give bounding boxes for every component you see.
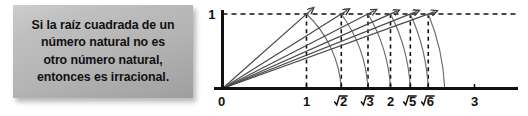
arc-sqrt6 [410, 14, 428, 89]
arc-sqrt5 [391, 14, 411, 89]
ray-to-r2 [223, 10, 348, 88]
x-tick-label-0: 1 [303, 94, 310, 109]
ray-to-r6 [223, 12, 435, 89]
x-tick-label-4: 5 [403, 94, 416, 109]
svg-text:5: 5 [409, 94, 416, 109]
origin-label: 0 [218, 94, 225, 109]
svg-text:3: 3 [367, 94, 374, 109]
ray-to-2 [223, 11, 397, 88]
axes [214, 10, 518, 89]
axis-labels: 101232563 [208, 7, 478, 109]
arc-sqrt7 [428, 14, 444, 89]
statement-line-2: número natural no es [17, 34, 189, 52]
figure-root: Si la raíz cuadrada de un número natural… [0, 0, 528, 116]
arc-sqrt4 [368, 14, 391, 89]
plot-area [223, 9, 517, 89]
x-tick-label-3: 2 [387, 94, 394, 109]
ray-to-r3 [223, 11, 375, 89]
x-tick-label-2: 3 [361, 94, 374, 109]
statement-line-3: otro número natural, [17, 52, 189, 70]
x-tick-label-5: 6 [421, 94, 434, 109]
number-line-diagram: 101232563 [200, 0, 528, 116]
y-axis-label-1: 1 [208, 7, 215, 22]
statement-box: Si la raíz cuadrada de un número natural… [13, 5, 193, 98]
svg-text:6: 6 [427, 94, 434, 109]
svg-text:2: 2 [340, 94, 347, 109]
statement-line-4: entonces es irracional. [17, 69, 189, 87]
ray-to-r5 [223, 11, 417, 88]
diagram-svg: 101232563 [200, 0, 528, 116]
ray-to-1 [223, 9, 312, 88]
statement-line-1: Si la raíz cuadrada de un [17, 17, 189, 35]
x-tick-label-6: 3 [471, 94, 478, 109]
x-tick-label-1: 2 [334, 94, 347, 109]
